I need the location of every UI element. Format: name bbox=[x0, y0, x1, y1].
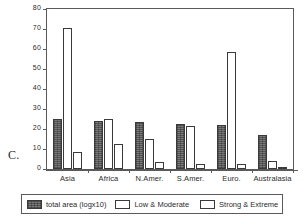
y-tick-mark bbox=[43, 49, 46, 50]
y-tick-label: 60 bbox=[33, 44, 41, 51]
x-tick-mark bbox=[252, 170, 253, 173]
bar-group-africa bbox=[88, 9, 129, 169]
x-tick-mark bbox=[170, 170, 171, 173]
x-tick-mark bbox=[129, 170, 130, 173]
y-tick-label: 20 bbox=[33, 124, 41, 131]
bar-group-euro bbox=[211, 9, 252, 169]
bar-australasia-series2 bbox=[268, 161, 277, 169]
legend-item-total-area: total area (logx10) bbox=[27, 200, 106, 209]
bar-group-asia bbox=[47, 9, 88, 169]
bar-namer-series2 bbox=[145, 139, 154, 169]
x-tick-mark bbox=[211, 170, 212, 173]
bar-asia-series3 bbox=[73, 152, 82, 169]
bar-euro-series3 bbox=[237, 164, 246, 169]
y-tick-mark bbox=[43, 89, 46, 90]
chart-plot-area: million hectares 01020304050607080 bbox=[46, 8, 294, 170]
bar-group-namer bbox=[129, 9, 170, 169]
legend-item-strong-extreme: Strong & Extreme bbox=[200, 200, 278, 209]
x-tick-mark bbox=[293, 170, 294, 173]
y-tick-label: 70 bbox=[33, 24, 41, 31]
bar-group-samer bbox=[170, 9, 211, 169]
legend-label-strong-extreme: Strong & Extreme bbox=[219, 200, 278, 209]
bar-series-container bbox=[47, 9, 293, 169]
bar-euro-series2 bbox=[227, 52, 236, 169]
legend-swatch-total-area-icon bbox=[27, 200, 42, 209]
y-tick-label: 10 bbox=[33, 144, 41, 151]
bar-asia-series2 bbox=[63, 28, 72, 169]
y-tick-mark bbox=[43, 29, 46, 30]
bar-samer-series1 bbox=[176, 124, 185, 169]
bar-namer-series1 bbox=[135, 122, 144, 169]
y-tick-label: 30 bbox=[33, 104, 41, 111]
chart-legend: total area (logx10) Low & Moderate Stron… bbox=[21, 194, 283, 214]
y-tick-mark bbox=[43, 129, 46, 130]
y-tick-mark bbox=[43, 9, 46, 10]
x-axis-label-asia: Asia bbox=[60, 174, 75, 183]
legend-item-low-moderate: Low & Moderate bbox=[115, 200, 189, 209]
bar-samer-series2 bbox=[186, 126, 195, 169]
bar-australasia-series1 bbox=[258, 135, 267, 169]
y-tick-label: 40 bbox=[33, 84, 41, 91]
bar-group-australasia bbox=[252, 9, 293, 169]
bar-asia-series1 bbox=[53, 119, 62, 169]
x-axis-label-namer: N.Amer. bbox=[136, 174, 164, 183]
bar-australasia-series3 bbox=[278, 167, 287, 169]
x-axis-label-australasia: Australasia bbox=[253, 174, 291, 183]
x-axis-label-africa: Africa bbox=[99, 174, 119, 183]
panel-label: C. bbox=[8, 148, 19, 163]
y-tick-mark bbox=[43, 149, 46, 150]
y-tick-mark bbox=[43, 109, 46, 110]
x-axis-label-euro: Euro. bbox=[222, 174, 240, 183]
x-axis-line bbox=[46, 170, 298, 171]
legend-swatch-strong-extreme-icon bbox=[200, 200, 215, 209]
y-tick-label: 50 bbox=[33, 64, 41, 71]
x-tick-mark bbox=[88, 170, 89, 173]
legend-label-low-moderate: Low & Moderate bbox=[134, 200, 189, 209]
legend-swatch-low-moderate-icon bbox=[115, 200, 130, 209]
bar-africa-series1 bbox=[94, 121, 103, 169]
y-tick-label: 80 bbox=[33, 4, 41, 11]
bar-africa-series2 bbox=[104, 119, 113, 169]
bar-africa-series3 bbox=[114, 144, 123, 169]
x-axis-label-samer: S.Amer. bbox=[177, 174, 204, 183]
legend-label-total-area: total area (logx10) bbox=[46, 200, 106, 209]
bar-euro-series1 bbox=[217, 125, 226, 169]
bar-samer-series3 bbox=[196, 164, 205, 169]
bar-namer-series3 bbox=[155, 162, 164, 169]
y-tick-mark bbox=[43, 69, 46, 70]
y-tick-label: 0 bbox=[37, 164, 41, 171]
